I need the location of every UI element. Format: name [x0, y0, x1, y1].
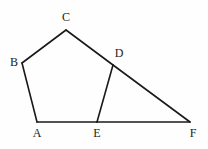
segment-DE [97, 65, 113, 122]
segment-BC [22, 30, 66, 63]
segment-CD [66, 30, 113, 65]
vertex-label-F: F [186, 127, 200, 139]
vertex-label-E: E [90, 127, 104, 139]
vertex-label-C: C [59, 11, 73, 23]
segment-DF [113, 65, 190, 122]
vertex-label-A: A [30, 127, 44, 139]
vertex-label-B: B [7, 56, 21, 68]
segment-AB [22, 63, 37, 122]
geometry-figure: A B C D E F [0, 0, 208, 149]
vertex-label-D: D [112, 47, 126, 59]
